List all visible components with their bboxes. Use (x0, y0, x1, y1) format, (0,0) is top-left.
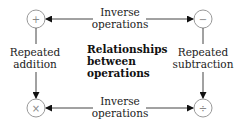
edge-top: Inverse operations (46, 6, 193, 30)
node-add: + (27, 10, 45, 28)
edge-right: Repeated subtraction (173, 28, 234, 98)
node-multiply: × (27, 99, 45, 117)
operations-diagram: + − × ÷ Inverse operations Inverse opera… (0, 0, 241, 127)
divide-icon: ÷ (199, 103, 207, 114)
edge-bottom-label-2: operations (92, 107, 149, 119)
title-line-1: Relationships (87, 43, 168, 55)
edge-top-label-1: Inverse (100, 6, 140, 18)
node-subtract: − (194, 10, 212, 28)
title-line-2: between (87, 55, 136, 67)
title-line-3: operations (87, 67, 150, 79)
edge-left-label-1: Repeated (10, 46, 61, 58)
diagram-title: Relationships between operations (87, 43, 168, 79)
edge-left: Repeated addition (10, 28, 61, 98)
edge-bottom-label-1: Inverse (100, 95, 140, 107)
minus-icon: − (199, 14, 207, 25)
edge-right-label-1: Repeated (178, 46, 229, 58)
edge-left-label-2: addition (13, 58, 57, 70)
edge-right-label-2: subtraction (173, 58, 234, 70)
node-divide: ÷ (194, 99, 212, 117)
plus-icon: + (32, 14, 40, 25)
edge-bottom: Inverse operations (46, 95, 193, 119)
edge-top-label-2: operations (92, 18, 149, 30)
times-icon: × (32, 103, 40, 114)
